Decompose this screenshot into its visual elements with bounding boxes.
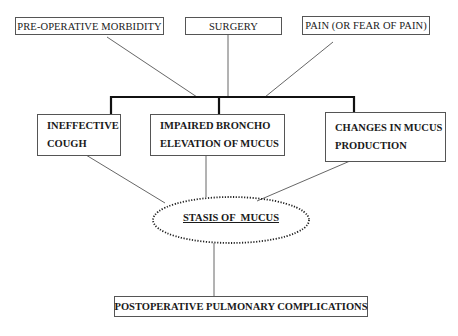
mechanism-box-impaired-broncho: IMPAIRED BRONCHO ELEVATION OF MUCUS	[150, 114, 285, 156]
mechanism-line: IMPAIRED BRONCHO	[160, 117, 270, 135]
mechanism-line: INEFFECTIVE	[47, 117, 119, 135]
cause-box-preoperative-morbidity: PRE-OPERATIVE MORBIDITY	[15, 17, 164, 35]
mechanism-box-ineffective-cough: INEFFECTIVE COUGH	[37, 114, 121, 156]
cause-label: PAIN (OR FEAR OF PAIN)	[305, 20, 427, 31]
cause-box-pain: PAIN (OR FEAR OF PAIN)	[302, 16, 430, 35]
cause-label: PRE-OPERATIVE MORBIDITY	[17, 21, 161, 32]
outcome-box-postoperative-complications: POSTOPERATIVE PULMONARY COMPLICATIONS	[114, 296, 368, 317]
mechanism-line: CHANGES IN MUCUS	[335, 119, 442, 137]
mechanism-line: PRODUCTION	[335, 137, 407, 155]
cause-box-surgery: SURGERY	[185, 17, 282, 35]
edge-mucusprod-to-stasis	[257, 161, 350, 201]
distribution-bracket	[111, 96, 355, 114]
connector-lines	[0, 0, 458, 336]
edge-preop-to-bracket	[107, 37, 197, 97]
mechanism-line: COUGH	[47, 135, 87, 153]
stasis-of-mucus-label: STASIS OF MUCUS	[168, 212, 294, 223]
outcome-label: POSTOPERATIVE PULMONARY COMPLICATIONS	[115, 301, 368, 312]
cause-label: SURGERY	[209, 21, 258, 32]
edge-cough-to-stasis	[86, 155, 165, 203]
edge-pain-to-bracket	[265, 42, 333, 97]
mechanism-box-mucus-production: CHANGES IN MUCUS PRODUCTION	[325, 112, 446, 162]
mechanism-line: ELEVATION OF MUCUS	[160, 135, 279, 153]
